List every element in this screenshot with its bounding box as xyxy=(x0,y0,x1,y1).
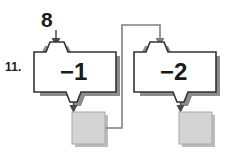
problem-number: 11. xyxy=(5,61,22,73)
answer-box-1[interactable] xyxy=(72,112,105,144)
answer-box-2[interactable] xyxy=(179,112,212,144)
machine-2-rule-label: −2 xyxy=(160,60,187,84)
machine-1-rule-label: −1 xyxy=(60,60,87,84)
worksheet-problem-canvas: 11. 8 −1 −2 xyxy=(0,0,231,156)
input-value-label: 8 xyxy=(41,9,53,30)
function-machine-diagram xyxy=(0,0,231,156)
